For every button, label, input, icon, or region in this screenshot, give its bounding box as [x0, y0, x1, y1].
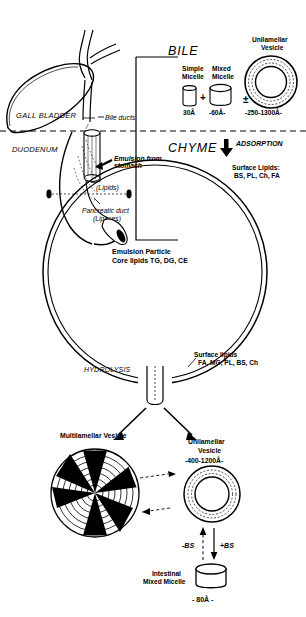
intestinal-mixed-micelle-label-line1: Intestinal — [152, 570, 181, 577]
adsorption-label: ADSORPTION — [235, 140, 284, 147]
bile-ducts-label: Bile ducts — [105, 114, 136, 121]
multilamellar-vesicle-label: Multilamellar Vesicle — [60, 432, 127, 439]
core-lipids-label: Core lipids TG, DG, CE — [112, 257, 188, 265]
mixed-micelle-shape — [210, 84, 231, 105]
gall-bladder-label: GALL BLADDER — [16, 111, 76, 120]
unilamellar-vesicle-bottom-size: -400-1200Å- — [185, 456, 223, 464]
unilamellar-vesicle-top-size: -250-1300Å- — [245, 108, 282, 116]
intestinal-mixed-micelle-size: - 80Å - — [192, 595, 214, 603]
chyme-section-label: CHYME — [168, 141, 217, 155]
surface-lipids-top-label: Surface Lipids: — [232, 164, 280, 172]
mixed-micelle-label-line1: Mixed — [212, 65, 231, 72]
surface-lipids-bottom-label: Surface lipids — [194, 351, 238, 359]
hydrolysis-neck-tube — [147, 366, 163, 405]
pancreatic-duct-label: Pancreatic duct — [82, 207, 130, 214]
duodenum-label: DUODENUM — [12, 145, 58, 154]
bile-section-label: BILE — [168, 44, 198, 58]
diagram-canvas: GALL BLADDER Bile ducts / DUODENUM Emuls… — [0, 0, 306, 617]
simple-micelle-label-line1: Simple — [182, 65, 204, 73]
mixed-micelle-label-line2: Micelle — [212, 73, 234, 80]
plus-operator: + — [200, 92, 206, 103]
stomach-outlet-cylinder — [84, 130, 100, 182]
lipid-digestion-diagram: GALL BLADDER Bile ducts / DUODENUM Emuls… — [0, 0, 306, 617]
intestinal-mixed-micelle-shape — [196, 564, 226, 588]
simple-micelle-label-line2: Micelle — [182, 73, 204, 80]
simple-micelle-shape — [183, 86, 196, 106]
unilamellar-vesicle-top-label-line1: Unilamellar — [252, 36, 288, 43]
hydrolysis-label: HYDROLYSIS — [84, 366, 131, 373]
unilamellar-vesicle-bottom-label-line1: Unilamellar — [188, 438, 225, 445]
unilamellar-vesicle-top-label-line2: Vesicle — [261, 44, 284, 51]
intestinal-mixed-micelle-label-line2: Mixed Micelle — [143, 578, 186, 585]
surface-lipids-top-values: BS, PL, Ch, FA — [234, 172, 280, 180]
mixed-micelle-size: -60Å- — [209, 108, 226, 116]
surface-lipids-bottom-values: FA, MG, PL, BS, Ch — [198, 359, 258, 367]
plus-bs-label: +BS — [220, 542, 234, 549]
simple-micelle-size: 30Å — [183, 108, 195, 116]
unilamellar-vesicle-bottom-label-line2: Vesicle — [198, 447, 221, 454]
emulsion-particle-label: Emulsion Particle — [112, 248, 171, 255]
minus-bs-label: -BS — [182, 542, 194, 549]
lipids-label: (Lipids) — [96, 184, 119, 192]
